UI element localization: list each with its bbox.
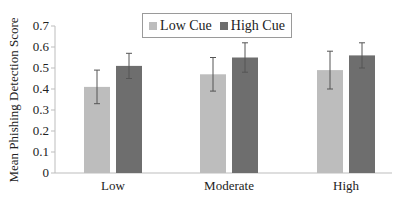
y-tick-label: 0.3 bbox=[23, 102, 49, 118]
y-tick-label: 0.1 bbox=[23, 144, 49, 160]
bar-high-cue-high bbox=[349, 55, 375, 173]
legend-label-low-cue: Low Cue bbox=[160, 18, 212, 34]
legend-item-high-cue: High Cue bbox=[220, 18, 285, 34]
bar-chart: Mean Phishing Detection Score 00.10.20.3… bbox=[0, 0, 412, 201]
x-category-label-high: High bbox=[306, 178, 386, 194]
y-tick-label: 0.4 bbox=[23, 81, 49, 97]
legend-item-low-cue: Low Cue bbox=[149, 18, 212, 34]
y-tick-label: 0.5 bbox=[23, 60, 49, 76]
bar-high-cue-moderate bbox=[232, 58, 258, 174]
y-tick-label: 0.2 bbox=[23, 123, 49, 139]
legend-swatch-low-cue bbox=[149, 22, 157, 30]
x-category-label-low: Low bbox=[73, 178, 153, 194]
legend: Low Cue High Cue bbox=[142, 13, 292, 38]
legend-label-high-cue: High Cue bbox=[231, 18, 285, 34]
y-axis-label: Mean Phishing Detection Score bbox=[6, 10, 22, 190]
y-tick-label: 0 bbox=[23, 165, 49, 181]
legend-swatch-high-cue bbox=[220, 22, 228, 30]
x-category-label-moderate: Moderate bbox=[189, 178, 269, 194]
bar-high-cue-low bbox=[116, 66, 142, 173]
y-tick-label: 0.7 bbox=[23, 18, 49, 34]
y-tick-label: 0.6 bbox=[23, 39, 49, 55]
